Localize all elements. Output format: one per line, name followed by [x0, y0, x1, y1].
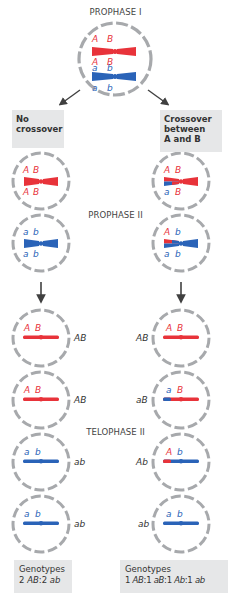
ratio-part: Ab [174, 575, 185, 585]
arrow-down-right-icon [148, 90, 166, 103]
telophase2-left-cell-2 [13, 372, 69, 428]
ratio-part: AB [133, 575, 144, 585]
allele-label: B [33, 166, 39, 175]
prophase2-left-cell-1 [13, 153, 69, 209]
prophase2-right-cell-2 [153, 215, 209, 271]
arrow-down-left-icon [62, 90, 80, 103]
allele-label: B [107, 35, 113, 44]
crossover-box: Crossover between A and B [160, 110, 222, 152]
allele-label: B [35, 324, 41, 333]
ratio-part: 1 [125, 575, 133, 585]
red-chromosome-pair-icon [92, 47, 136, 56]
genotype-ratio: 1 AB:1 aB:1 Ab:1 ab [125, 575, 223, 586]
blue-chromosome-pair-icon [92, 72, 136, 81]
genotypes-left-box: Genotypes 2 AB:2 ab [14, 560, 72, 593]
allele-label: b [177, 510, 183, 519]
telophase2-left-cell-4 [13, 496, 69, 552]
genotype-label: AB [74, 333, 86, 343]
allele-label: a [24, 510, 30, 519]
allele-label: a [23, 228, 29, 237]
ratio-part: ab [195, 575, 205, 585]
ratio-part: 2 [19, 575, 27, 585]
allele-label: a [92, 64, 98, 73]
allele-label: a [166, 510, 172, 519]
ratio-part: :1 [144, 575, 154, 585]
genotype-label: Ab [136, 457, 148, 467]
box-line: crossover [16, 124, 60, 134]
genotypes-title: Genotypes [125, 564, 223, 575]
allele-label: a [166, 386, 172, 395]
telophase2-right-cell-1 [153, 310, 209, 366]
allele-label: A [24, 386, 30, 395]
allele-label: B [175, 188, 181, 197]
ratio-part: :1 [185, 575, 195, 585]
allele-label: A [164, 166, 170, 175]
allele-label: A [164, 228, 170, 237]
box-line: Crossover [164, 114, 218, 124]
allele-label: b [107, 84, 113, 93]
genotype-label: ab [74, 457, 85, 467]
allele-label: A [92, 35, 98, 44]
allele-label: a [164, 188, 170, 197]
ratio-part: aB [154, 575, 164, 585]
allele-label: A [166, 448, 172, 457]
ratio-part: :2 [39, 575, 50, 585]
allele-label: b [35, 510, 41, 519]
allele-label: a [164, 250, 170, 259]
telophase2-left-cell-1 [13, 310, 69, 366]
ratio-part: AB [27, 575, 39, 585]
genotype-ratio: 2 AB:2 ab [19, 575, 67, 586]
allele-label: B [177, 324, 183, 333]
allele-label: b [177, 448, 183, 457]
allele-label: b [175, 250, 181, 259]
allele-label: b [107, 64, 113, 73]
telophase2-right-cell-2 [153, 372, 209, 428]
allele-label: b [35, 448, 41, 457]
allele-label: A [23, 166, 29, 175]
prophase2-left-cell-2 [13, 215, 69, 271]
allele-label: A [23, 188, 29, 197]
telophase2-left-cell-3 [13, 434, 69, 490]
box-line: No [16, 114, 60, 124]
allele-label: A [24, 324, 30, 333]
allele-label: A [166, 324, 172, 333]
telophase2-label: TELOPHASE II [0, 427, 231, 437]
allele-label: a [92, 84, 98, 93]
no-crossover-box: No crossover [12, 110, 64, 148]
allele-label: b [33, 250, 39, 259]
genotypes-title: Genotypes [19, 564, 67, 575]
ratio-part: :1 [164, 575, 174, 585]
allele-label: a [23, 250, 29, 259]
telophase2-right-cell-3 [153, 434, 209, 490]
telophase2-right-cell-4 [153, 496, 209, 552]
genotype-label: aB [136, 395, 148, 405]
allele-label: B [177, 386, 183, 395]
genotype-label: AB [136, 333, 148, 343]
prophase1-cell [79, 23, 151, 95]
box-line: A and B [164, 134, 218, 144]
allele-label: B [35, 386, 41, 395]
prophase1-label: PROPHASE I [0, 7, 231, 17]
genotypes-right-box: Genotypes 1 AB:1 aB:1 Ab:1 ab [120, 560, 228, 593]
allele-label: a [24, 448, 30, 457]
allele-label: b [175, 228, 181, 237]
box-line: between [164, 124, 218, 134]
genotype-label: ab [138, 519, 149, 529]
allele-label: b [33, 228, 39, 237]
ratio-part: ab [50, 575, 61, 585]
prophase2-right-cell-1 [153, 153, 209, 209]
genotype-label: ab [74, 519, 85, 529]
allele-label: B [33, 188, 39, 197]
prophase2-label: PROPHASE II [0, 210, 231, 220]
genotype-label: AB [74, 395, 86, 405]
allele-label: B [175, 166, 181, 175]
